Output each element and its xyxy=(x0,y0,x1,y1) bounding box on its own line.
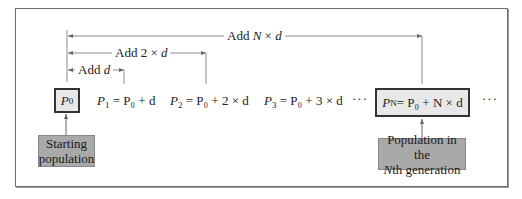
equation-p3: P3 = P₀ + 3 × d xyxy=(264,93,343,109)
label-add-d: Add d xyxy=(75,63,113,77)
ellipsis-2: ··· xyxy=(482,91,498,107)
label-add-2-times-d: Add 2 × d xyxy=(112,46,170,60)
equation-p2: P2 = P₀ + 2 × d xyxy=(170,93,249,109)
pn-box: PN = P₀ + N × d xyxy=(375,88,470,117)
equation-p1: P1 = P₀ + d xyxy=(97,93,155,109)
ellipsis-1: ··· xyxy=(352,91,368,107)
label-add-n-times-d: Add N × d xyxy=(224,29,285,43)
starting-population-callout: Startingpopulation xyxy=(38,135,95,167)
p0-box: P0 xyxy=(54,88,80,113)
nth-generation-callout: Population in theNth generation xyxy=(378,138,466,170)
